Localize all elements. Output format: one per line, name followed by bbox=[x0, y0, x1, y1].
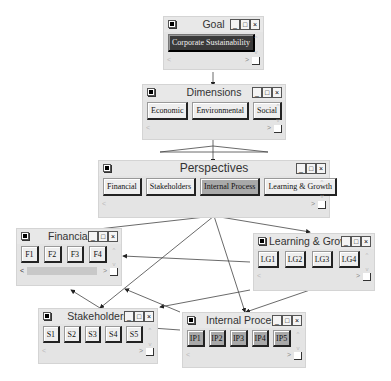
horizontal-scrollbar[interactable]: <> bbox=[99, 199, 329, 210]
f3-button[interactable]: F3 bbox=[67, 246, 85, 263]
resize-grip-icon[interactable] bbox=[110, 268, 118, 276]
maximize-icon[interactable]: □ bbox=[282, 315, 292, 326]
system-menu-icon[interactable] bbox=[258, 237, 266, 245]
vertical-scrollbar[interactable]: ^v bbox=[110, 246, 118, 268]
resize-grip-icon[interactable] bbox=[252, 57, 260, 65]
horizontal-scrollbar[interactable]: <> bbox=[164, 55, 263, 66]
stakeholders-button[interactable]: Stakeholders bbox=[146, 178, 196, 196]
lg2-button[interactable]: LG2 bbox=[285, 251, 306, 268]
learning-growth-button[interactable]: Learning & Growth bbox=[264, 178, 337, 196]
maximize-icon[interactable]: □ bbox=[306, 163, 316, 174]
close-icon[interactable]: × bbox=[292, 315, 302, 326]
close-icon[interactable]: × bbox=[316, 163, 326, 174]
maximize-icon[interactable]: □ bbox=[262, 87, 272, 98]
close-icon[interactable]: × bbox=[144, 311, 154, 322]
vertical-scrollbar[interactable]: ^v bbox=[252, 34, 260, 56]
minimize-icon[interactable]: _ bbox=[272, 315, 282, 326]
ip2-button[interactable]: IP2 bbox=[209, 330, 227, 347]
s1-button[interactable]: S1 bbox=[43, 326, 60, 343]
s4-button[interactable]: S4 bbox=[105, 326, 122, 343]
internal-process-button[interactable]: Internal Process bbox=[200, 178, 260, 196]
scrollbar-thumb[interactable] bbox=[27, 267, 97, 275]
horizontal-scrollbar[interactable]: <> bbox=[143, 123, 285, 134]
s3-button[interactable]: S3 bbox=[85, 326, 102, 343]
minimize-icon[interactable]: _ bbox=[124, 311, 134, 322]
minimize-icon[interactable]: _ bbox=[230, 19, 240, 30]
f2-button[interactable]: F2 bbox=[44, 246, 62, 263]
ip4-button[interactable]: IP4 bbox=[252, 330, 270, 347]
s2-button[interactable]: S2 bbox=[64, 326, 81, 343]
horizontal-scrollbar[interactable]: <> bbox=[183, 350, 305, 361]
f1-button[interactable]: F1 bbox=[21, 246, 39, 263]
financial-window[interactable]: Financial _ □ × F1 F2 F3 F4 ^v <> bbox=[16, 228, 122, 286]
minimize-icon[interactable]: _ bbox=[88, 231, 98, 242]
s5-button[interactable]: S5 bbox=[126, 326, 143, 343]
minimize-icon[interactable]: _ bbox=[341, 236, 351, 247]
lg1-button[interactable]: LG1 bbox=[258, 251, 279, 268]
vertical-scrollbar[interactable]: ^v bbox=[363, 251, 371, 273]
ip5-button[interactable]: IP5 bbox=[273, 330, 291, 347]
resize-grip-icon[interactable] bbox=[363, 273, 371, 281]
horizontal-scrollbar[interactable]: <> bbox=[39, 346, 157, 357]
maximize-icon[interactable]: □ bbox=[240, 19, 250, 30]
vertical-scrollbar[interactable]: ^v bbox=[146, 326, 154, 348]
perspectives-window[interactable]: Perspectives _ □ × Financial Stakeholder… bbox=[98, 160, 330, 218]
close-icon[interactable]: × bbox=[250, 19, 260, 30]
minimize-icon[interactable]: _ bbox=[252, 87, 262, 98]
goal-titlebar[interactable]: Goal _ □ × bbox=[164, 17, 263, 32]
resize-grip-icon[interactable] bbox=[146, 348, 154, 356]
economic-button[interactable]: Economic bbox=[147, 102, 188, 120]
ip1-button[interactable]: IP1 bbox=[187, 330, 205, 347]
environmental-button[interactable]: Environmental bbox=[192, 102, 249, 120]
close-icon[interactable]: × bbox=[272, 87, 282, 98]
resize-grip-icon[interactable] bbox=[318, 201, 326, 209]
stakeholders-window[interactable]: Stakeholders _ □ × S1 S2 S3 S4 S5 ^v <> bbox=[38, 308, 158, 364]
horizontal-scrollbar[interactable]: <> bbox=[17, 266, 121, 277]
vertical-scrollbar[interactable]: ^v bbox=[318, 178, 326, 200]
dimensions-window[interactable]: Dimensions _ □ × Economic Environmental … bbox=[142, 84, 286, 140]
f4-button[interactable]: F4 bbox=[89, 246, 107, 263]
close-icon[interactable]: × bbox=[361, 236, 371, 247]
window-title: Perspectives bbox=[99, 161, 329, 176]
maximize-icon[interactable]: □ bbox=[351, 236, 361, 247]
vertical-scrollbar[interactable]: ^v bbox=[294, 330, 302, 352]
minimize-icon[interactable]: _ bbox=[296, 163, 306, 174]
horizontal-scrollbar[interactable]: <> bbox=[254, 271, 374, 282]
close-icon[interactable]: × bbox=[108, 231, 118, 242]
resize-grip-icon[interactable] bbox=[274, 125, 282, 133]
lg4-button[interactable]: LG4 bbox=[339, 251, 360, 268]
ip3-button[interactable]: IP3 bbox=[230, 330, 248, 347]
maximize-icon[interactable]: □ bbox=[134, 311, 144, 322]
financial-button[interactable]: Financial bbox=[103, 178, 142, 196]
corporate-sustainability-button[interactable]: Corporate Sustainability bbox=[168, 34, 255, 52]
learning-growth-window[interactable]: Learning & Growth _ □ × LG1 LG2 LG3 LG4 … bbox=[253, 233, 375, 291]
vertical-scrollbar[interactable]: ^v bbox=[274, 102, 282, 124]
maximize-icon[interactable]: □ bbox=[98, 231, 108, 242]
resize-grip-icon[interactable] bbox=[294, 352, 302, 360]
lg3-button[interactable]: LG3 bbox=[312, 251, 333, 268]
goal-window[interactable]: Goal _ □ × Corporate Sustainability ^v <… bbox=[163, 16, 264, 70]
internal-process-window[interactable]: Internal Process _ □ × IP1 IP2 IP3 IP4 I… bbox=[182, 312, 306, 368]
